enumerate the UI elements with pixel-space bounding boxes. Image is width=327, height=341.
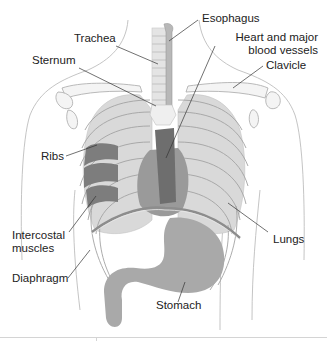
label-trachea: Trachea (74, 32, 116, 45)
label-ribs: Ribs (41, 150, 64, 163)
label-clavicle: Clavicle (266, 59, 306, 72)
label-sternum: Sternum (32, 54, 75, 67)
label-heart-line-2: blood vessels (218, 44, 318, 57)
intercostal-muscles (84, 143, 118, 208)
label-intercostal-line-2: muscles (12, 242, 65, 255)
label-lungs: Lungs (273, 233, 304, 246)
label-heart-line-1: Heart and major (218, 31, 318, 44)
label-intercostal-line-1: Intercostal (12, 229, 65, 242)
label-esophagus: Esophagus (202, 12, 260, 25)
footer-divider (0, 337, 327, 338)
sternum-shape (150, 105, 176, 125)
anatomy-diagram: Esophagus Trachea Heart and major blood … (0, 0, 327, 341)
footer-divider-tick (96, 337, 97, 341)
label-heart-and-major-blood-vessels: Heart and major blood vessels (218, 31, 318, 57)
label-intercostal-muscles: Intercostal muscles (12, 229, 65, 255)
trachea-shape (152, 23, 173, 110)
label-diaphragm: Diaphragm (12, 272, 68, 285)
label-stomach: Stomach (156, 299, 201, 312)
